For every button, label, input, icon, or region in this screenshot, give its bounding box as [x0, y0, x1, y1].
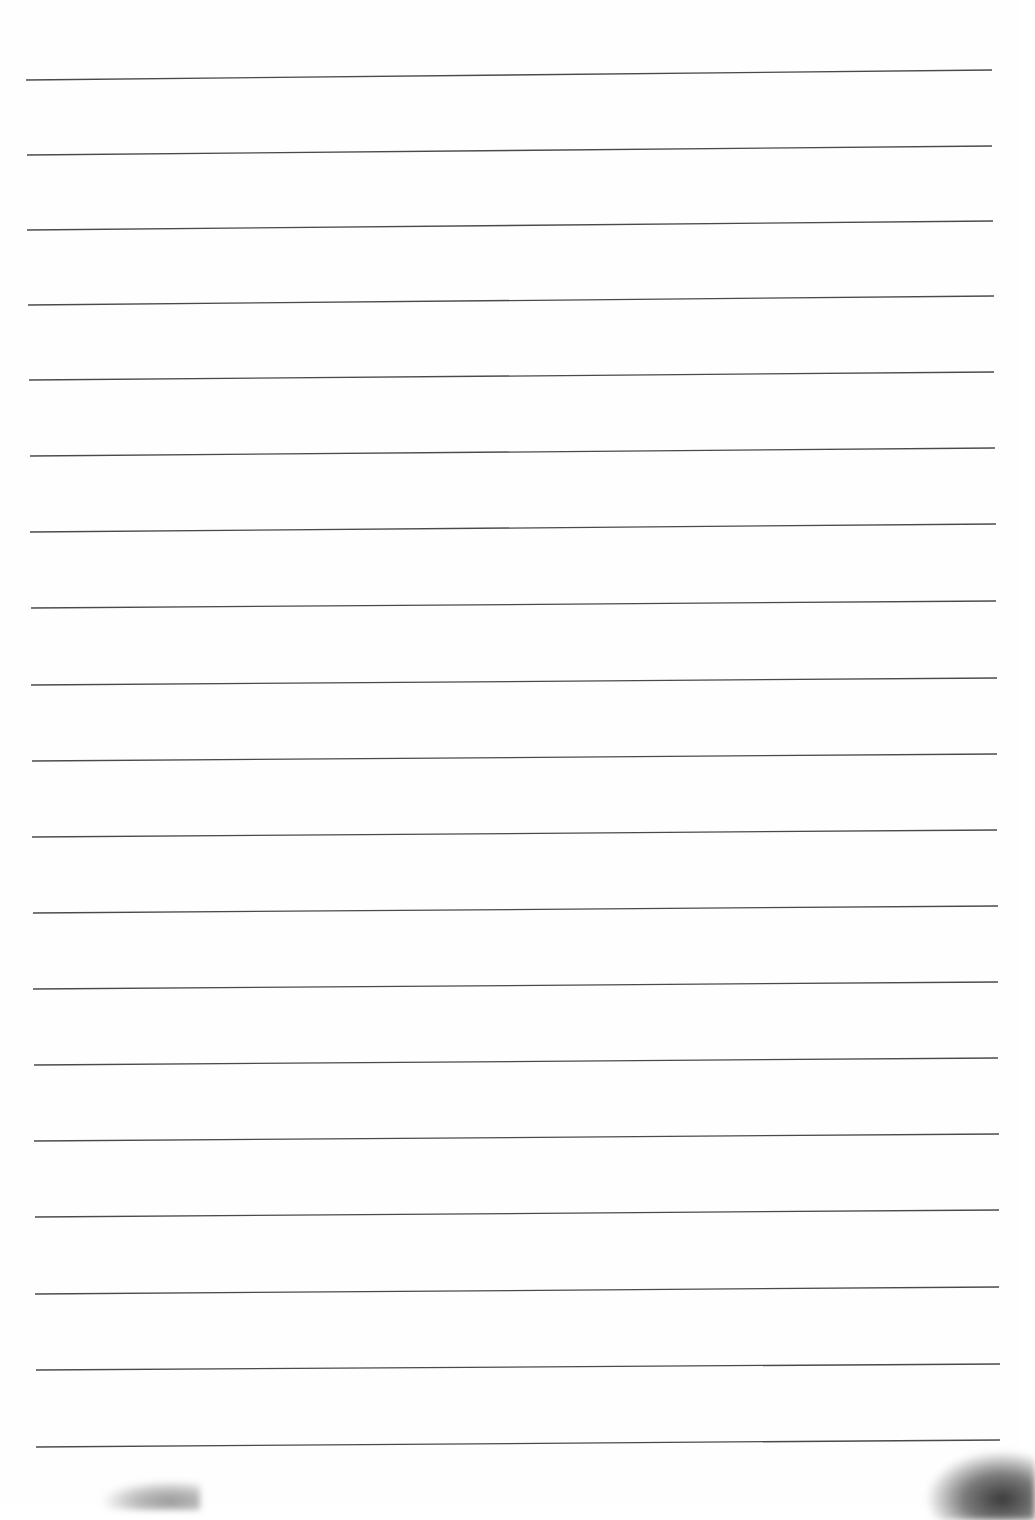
rule-line-14 — [34, 1058, 998, 1065]
rule-line-8 — [31, 601, 996, 608]
rule-line-15 — [34, 1134, 999, 1141]
rule-line-2 — [27, 146, 992, 155]
rule-line-9 — [31, 678, 997, 685]
rule-line-7 — [30, 524, 996, 532]
rule-line-11 — [32, 830, 997, 837]
rule-line-3 — [27, 221, 993, 230]
rule-line-19 — [36, 1440, 1000, 1447]
rule-line-16 — [35, 1210, 999, 1217]
rule-line-4 — [28, 296, 994, 305]
rule-line-5 — [29, 372, 994, 380]
rule-line-1 — [26, 70, 992, 80]
rule-line-10 — [32, 754, 997, 761]
rule-line-18 — [36, 1364, 1000, 1370]
rule-line-13 — [33, 982, 998, 989]
rule-line-6 — [30, 448, 995, 456]
rule-line-12 — [33, 906, 998, 913]
rule-line-17 — [35, 1287, 999, 1294]
